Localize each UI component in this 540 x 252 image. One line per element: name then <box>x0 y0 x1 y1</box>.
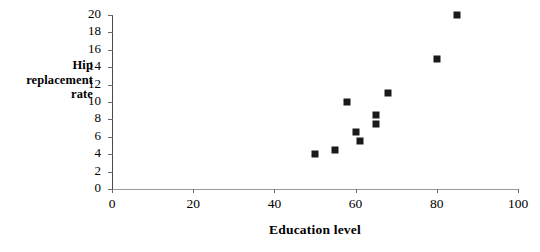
y-axis-tick: 16 <box>108 50 113 51</box>
x-axis-tick <box>274 189 275 193</box>
x-axis-tick-label: 0 <box>109 197 116 211</box>
y-axis-tick: 8 <box>108 119 113 120</box>
data-point-marker <box>433 55 440 62</box>
scatter-chart-figure: Hip replacement rate 02468101214161820 0… <box>0 0 540 252</box>
y-axis-tick: 20 <box>108 15 113 16</box>
data-point-marker <box>312 151 319 158</box>
x-axis-tick <box>112 189 113 193</box>
data-point-marker <box>372 120 379 127</box>
y-axis-tick-label: 2 <box>95 164 102 177</box>
y-axis-tick-label: 14 <box>88 59 101 72</box>
y-axis-title-line-2: replacement <box>0 73 93 88</box>
x-axis-line <box>112 189 518 190</box>
x-axis-tick-label: 40 <box>268 197 282 211</box>
y-axis-tick: 4 <box>108 154 113 155</box>
y-axis-tick: 18 <box>108 32 113 33</box>
y-axis-tick: 6 <box>108 137 113 138</box>
y-axis-tick-label: 18 <box>88 24 101 37</box>
y-axis-tick-label: 8 <box>95 111 102 124</box>
y-axis-tick-label: 10 <box>88 94 101 107</box>
y-axis-title-line-3: rate <box>0 87 93 102</box>
y-axis-tick: 14 <box>108 67 113 68</box>
y-axis-tick: 12 <box>108 85 113 86</box>
x-axis-tick <box>356 189 357 193</box>
x-axis-tick <box>193 189 194 193</box>
data-point-marker <box>332 146 339 153</box>
y-axis-tick-label: 6 <box>95 129 102 142</box>
y-axis-tick-label: 0 <box>95 181 102 194</box>
y-axis-tick-label: 16 <box>88 42 101 55</box>
x-axis-title: Education level <box>112 222 518 238</box>
y-axis-title-line-1: Hip <box>0 58 93 73</box>
y-axis-tick-label: 4 <box>95 146 102 159</box>
x-axis-tick <box>518 189 519 193</box>
y-axis-tick: 10 <box>108 102 113 103</box>
data-point-marker <box>356 138 363 145</box>
x-axis-tick-label: 60 <box>349 197 363 211</box>
data-point-marker <box>344 99 351 106</box>
y-axis-title: Hip replacement rate <box>0 58 93 102</box>
y-axis-tick: 2 <box>108 172 113 173</box>
x-axis-tick-label: 80 <box>430 197 444 211</box>
x-axis-tick-label: 20 <box>186 197 200 211</box>
y-axis-tick-label: 12 <box>88 77 101 90</box>
data-point-marker <box>454 12 461 19</box>
plot-area: 02468101214161820 020406080100 <box>112 15 518 189</box>
y-axis-tick-label: 20 <box>88 7 101 20</box>
x-axis-tick-label: 100 <box>508 197 528 211</box>
x-axis-tick <box>437 189 438 193</box>
data-point-marker <box>385 90 392 97</box>
data-point-marker <box>372 112 379 119</box>
data-point-marker <box>352 129 359 136</box>
